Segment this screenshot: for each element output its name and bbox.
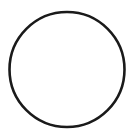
drawing-canvas bbox=[0, 0, 138, 139]
canvas-background bbox=[0, 0, 138, 139]
circle-drawing bbox=[0, 0, 138, 139]
